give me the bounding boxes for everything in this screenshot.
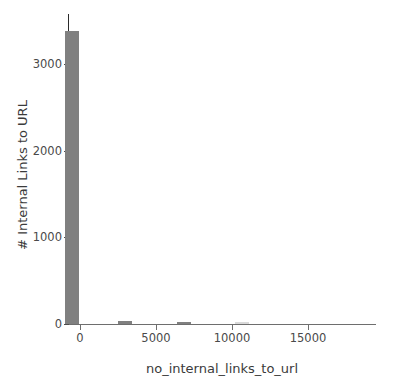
x-tick-label-5000: 5000	[141, 333, 170, 345]
y-tick-mark-0	[64, 324, 69, 325]
x-tick-mark-5000	[156, 325, 157, 330]
y-tick-label-3000: 3000	[33, 59, 62, 71]
x-axis-spine	[68, 324, 376, 325]
x-tick-mark-0	[80, 325, 81, 330]
histogram-bar	[118, 321, 132, 324]
x-tick-label-10000: 10000	[214, 333, 251, 345]
bars-layer	[68, 14, 375, 324]
x-tick-label-0: 0	[76, 333, 83, 345]
histogram-figure: 0 1000 2000 3000 0 5000 10000 15000 # In…	[0, 0, 396, 389]
histogram-bar	[65, 31, 79, 324]
histogram-bar	[235, 322, 249, 324]
x-tick-label-15000: 15000	[290, 333, 327, 345]
x-tick-mark-10000	[232, 325, 233, 330]
y-axis-label: # Internal Links to URL	[14, 20, 32, 330]
y-tick-label-2000: 2000	[33, 146, 62, 158]
histogram-bar	[177, 322, 191, 324]
x-tick-mark-15000	[308, 325, 309, 330]
x-axis-label: no_internal_links_to_url	[68, 362, 376, 375]
y-tick-label-1000: 1000	[33, 232, 62, 244]
y-tick-label-0: 0	[55, 319, 62, 331]
